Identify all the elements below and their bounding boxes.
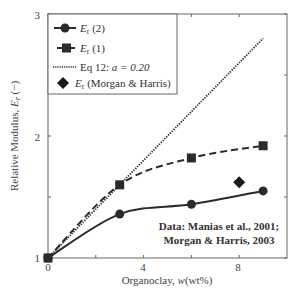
square-marker-icon	[259, 141, 268, 150]
annotation-line-2: Morgan & Harris, 2003	[163, 234, 275, 246]
y-tick-labels: 1 2 3	[35, 9, 41, 264]
y-axis-label: Relative Modulus, Er (−)	[8, 81, 22, 192]
y-tick-label-2: 2	[35, 131, 41, 143]
legend-circle-marker-icon	[61, 24, 70, 33]
legend-square-marker-icon	[62, 44, 71, 53]
y-tick-label-1: 1	[35, 252, 41, 264]
legend-item-eq12: Eq 12: a = 0.20	[80, 61, 150, 73]
circle-marker-icon	[115, 210, 124, 219]
diamond-marker-icon	[233, 176, 245, 188]
legend-item-er2: Er (2)	[79, 22, 105, 36]
chart: 0 4 8 1 2 3 Organoclay, w(wt%) Relative …	[0, 0, 302, 307]
x-tick-label-4: 4	[140, 261, 146, 273]
x-axis-label: Organoclay, w(wt%)	[122, 274, 213, 287]
y-tick-label-3: 3	[35, 9, 41, 21]
legend-item-morgan-harris: Er (Morgan & Harris)	[74, 77, 171, 91]
x-tick-label-0: 0	[45, 261, 51, 273]
legend-item-er1: Er (1)	[79, 42, 105, 56]
x-tick-labels: 0 4 8	[45, 261, 241, 273]
circle-marker-icon	[259, 186, 268, 195]
legend: Er (2) Er (1) Eq 12: a = 0.20 Er (Morgan…	[48, 14, 177, 94]
square-marker-icon	[187, 153, 196, 162]
circle-marker-icon	[187, 200, 196, 209]
data-source-annotation: Data: Manias et al., 2001; Morgan & Harr…	[159, 220, 279, 246]
annotation-line-1: Data: Manias et al., 2001;	[159, 220, 279, 232]
x-tick-label-8: 8	[235, 261, 241, 273]
